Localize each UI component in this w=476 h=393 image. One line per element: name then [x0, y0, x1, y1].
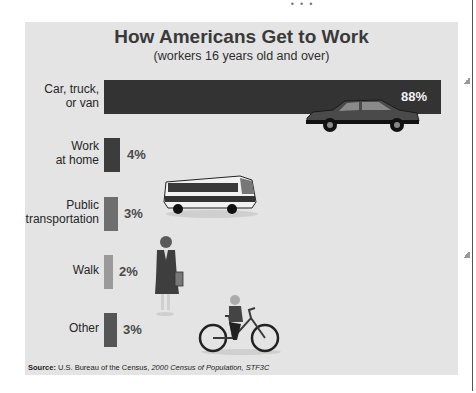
bar-work-at-home [104, 138, 120, 172]
walking-woman-icon [151, 234, 187, 318]
margin-marker-icon [464, 250, 470, 258]
source-prefix: Source: [28, 363, 56, 372]
bar-other [104, 313, 117, 347]
bar-public-transportation [104, 197, 118, 231]
source-text: U.S. Bureau of the Census, [56, 363, 151, 372]
value-label-walk: 2% [119, 264, 138, 279]
label-line: Work [56, 139, 99, 153]
value-label-work-at-home: 4% [127, 147, 146, 162]
label-line: or van [44, 96, 99, 110]
bus-icon [160, 172, 260, 220]
label-line: Public [26, 198, 99, 212]
label-line: Car, truck, [44, 82, 99, 96]
source-publication: 2000 Census of Population, STF3C [151, 363, 269, 372]
car-icon [303, 96, 423, 136]
chart-panel: How Americans Get to Work (workers 16 ye… [25, 22, 458, 375]
category-label-public-transportation: Public transportation [26, 198, 99, 226]
value-label-public-transportation: 3% [124, 206, 143, 221]
value-label-other: 3% [123, 322, 142, 337]
category-label-car: Car, truck, or van [44, 82, 99, 110]
category-label-work-at-home: Work at home [56, 139, 99, 167]
bar-walk [104, 255, 113, 289]
category-label-walk: Walk [73, 263, 99, 277]
category-label-other: Other [69, 321, 99, 335]
bicycle-rider-icon [195, 294, 285, 356]
chart-subtitle: (workers 16 years old and over) [25, 49, 458, 63]
margin-marker-icon [464, 76, 470, 84]
chart-source: Source: U.S. Bureau of the Census, 2000 … [28, 363, 269, 372]
chart-title: How Americans Get to Work [25, 26, 458, 48]
header-dots: • • • [290, 0, 314, 9]
label-line: transportation [26, 212, 99, 226]
label-line: at home [56, 153, 99, 167]
